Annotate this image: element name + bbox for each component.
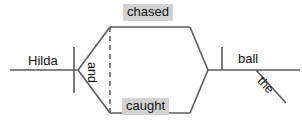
split-upper-right (190, 27, 208, 70)
label-object: ball (238, 52, 258, 66)
split-lower-right (190, 70, 208, 113)
label-verb-2: caught (122, 98, 169, 115)
sentence-diagram: Hilda chased caught and ball the (0, 0, 302, 129)
label-subject: Hilda (28, 54, 58, 68)
label-verb-1: chased (123, 4, 173, 21)
label-conjunction: and (85, 62, 99, 83)
